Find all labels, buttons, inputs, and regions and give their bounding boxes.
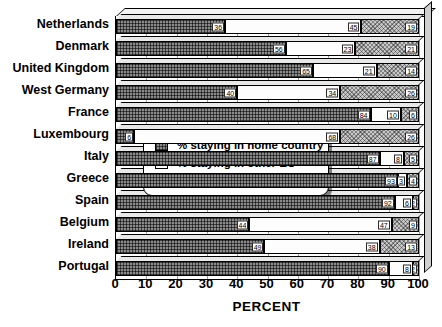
bar-value-label: 8 — [403, 264, 411, 273]
bar-value-label: 10 — [387, 110, 399, 119]
plot-right-face — [424, 1, 432, 273]
bar-segment-other: 21 — [313, 63, 377, 78]
bar-row: 403426 — [116, 85, 418, 100]
y-axis-label-luxembourg: Luxembourg — [33, 127, 109, 141]
bar-segment-other: 38 — [264, 239, 379, 254]
bar-row: 562321 — [116, 41, 418, 56]
bar-value-label: 65 — [300, 66, 312, 75]
bar-value-label: 6 — [403, 198, 411, 207]
bar-segment-outside: 2 — [413, 195, 419, 210]
x-tick-10: 10 — [138, 276, 152, 291]
x-tick-40: 40 — [229, 276, 243, 291]
bar-value-label: 5 — [409, 154, 417, 163]
bar-value-label: 21 — [405, 44, 417, 53]
bar-value-label: 23 — [342, 44, 354, 53]
bar-value-label: 21 — [363, 66, 375, 75]
bar-segment-home: 84 — [116, 107, 371, 122]
x-tick-30: 30 — [199, 276, 213, 291]
bar-segment-other: 8 — [380, 151, 404, 166]
bar-segment-other: 47 — [249, 217, 391, 232]
bar-value-label: 44 — [237, 220, 249, 229]
bar-row: 66826 — [116, 129, 418, 144]
bar-segment-outside: 14 — [377, 63, 419, 78]
bar-value-label: 49 — [252, 242, 264, 251]
y-axis-label-portugal: Portugal — [58, 259, 109, 273]
bar-value-label: 93 — [385, 176, 397, 185]
x-tick-90: 90 — [380, 276, 394, 291]
bar-segment-home: 40 — [116, 85, 237, 100]
bar-row: 9262 — [116, 195, 418, 210]
bar-segment-outside: 5 — [404, 151, 419, 166]
y-axis-category-labels: NetherlandsDenmarkUnited KingdomWest Ger… — [0, 14, 113, 272]
bar-value-label: 26 — [405, 132, 417, 141]
bar-value-label: 14 — [405, 66, 417, 75]
bar-segment-home: 92 — [116, 195, 395, 210]
bar-row: 9082 — [116, 261, 418, 276]
bar-segment-outside: 13 — [380, 239, 419, 254]
bar-segment-home: 36 — [116, 19, 225, 34]
bar-value-label: 45 — [348, 22, 360, 31]
bar-value-label: 36 — [212, 22, 224, 31]
bar-segment-outside: 4 — [407, 173, 419, 188]
bar-segment-other: 34 — [237, 85, 340, 100]
bar-value-label: 6 — [409, 110, 417, 119]
bar-value-label: 26 — [405, 88, 417, 97]
bar-segment-other: 45 — [225, 19, 361, 34]
y-axis-label-denmark: Denmark — [56, 39, 110, 53]
x-tick-70: 70 — [320, 276, 334, 291]
bar-segment-home: 87 — [116, 151, 380, 166]
y-axis-label-greece: Greece — [67, 171, 109, 185]
bar-row: 493813 — [116, 239, 418, 254]
bar-segment-home: 90 — [116, 261, 389, 276]
bar-segment-outside: 26 — [340, 129, 419, 144]
bar-segment-other: 3 — [398, 173, 407, 188]
bar-value-label: 56 — [273, 44, 285, 53]
bar-segment-other: 6 — [395, 195, 413, 210]
bar-value-label: 40 — [224, 88, 236, 97]
x-tick-80: 80 — [350, 276, 364, 291]
bar-segment-home: 93 — [116, 173, 398, 188]
y-axis-label-west-germany: West Germany — [22, 83, 109, 97]
bar-value-label: 4 — [409, 176, 417, 185]
bar-value-label: 13 — [405, 242, 417, 251]
bar-value-label: 19 — [405, 22, 417, 31]
bar-segment-outside: 2 — [413, 261, 419, 276]
bar-row: 44479 — [116, 217, 418, 232]
bar-value-label: 87 — [367, 154, 379, 163]
y-axis-label-france: France — [68, 105, 109, 119]
bar-segment-outside: 26 — [340, 85, 419, 100]
bar-value-label: 34 — [326, 88, 338, 97]
y-axis-label-netherlands: Netherlands — [37, 17, 109, 31]
bar-row: 652114 — [116, 63, 418, 78]
x-tick-60: 60 — [290, 276, 304, 291]
bar-segment-home: 6 — [116, 129, 134, 144]
x-axis-tick-labels: 0102030405060708090100 — [115, 276, 418, 294]
y-axis-label-italy: Italy — [84, 149, 109, 163]
x-tick-0: 0 — [111, 276, 118, 291]
bar-segment-outside: 21 — [355, 41, 419, 56]
bar-segment-other: 68 — [134, 129, 340, 144]
y-axis-label-belgium: Belgium — [60, 215, 109, 229]
y-axis-label-ireland: Ireland — [68, 237, 109, 251]
stacked-bar-chart: NetherlandsDenmarkUnited KingdomWest Ger… — [0, 0, 442, 327]
bar-value-label: 9 — [409, 220, 417, 229]
bar-segment-other: 8 — [389, 261, 413, 276]
bar-value-label: 68 — [326, 132, 338, 141]
bar-row: 9334 — [116, 173, 418, 188]
bar-segment-outside: 19 — [361, 19, 419, 34]
bar-segment-other: 10 — [371, 107, 401, 122]
bar-row: 84106 — [116, 107, 418, 122]
bar-value-label: 92 — [382, 198, 394, 207]
bar-value-label: 90 — [376, 264, 388, 273]
bar-segment-outside: 6 — [401, 107, 419, 122]
bar-segment-other: 23 — [286, 41, 356, 56]
bar-segment-outside: 9 — [392, 217, 419, 232]
x-axis-title: PERCENT — [115, 299, 418, 314]
x-tick-20: 20 — [168, 276, 182, 291]
bar-value-label: 84 — [358, 110, 370, 119]
bar-value-label: 47 — [378, 220, 390, 229]
x-tick-50: 50 — [259, 276, 273, 291]
x-tick-100: 100 — [407, 276, 429, 291]
bar-segment-home: 56 — [116, 41, 286, 56]
bar-value-label: 38 — [366, 242, 378, 251]
